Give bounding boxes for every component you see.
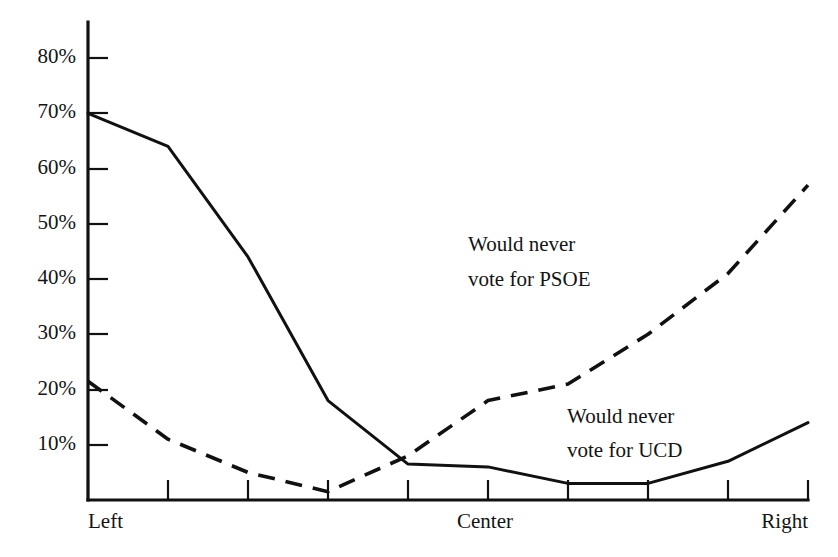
y-label-10: 10% xyxy=(38,431,77,455)
line-chart: 80% 70% 60% 50% 40% 30% 20% 10% Left Cen… xyxy=(0,0,838,557)
y-label-40: 40% xyxy=(38,265,77,289)
annotation-ucd-line1: Would never xyxy=(567,404,674,428)
y-label-80: 80% xyxy=(38,44,77,68)
x-label-right: Right xyxy=(761,509,808,533)
series-line-psoe xyxy=(88,185,808,492)
annotation-psoe-line2: vote for PSOE xyxy=(468,267,591,291)
x-label-left: Left xyxy=(88,509,123,533)
x-axis-ticks xyxy=(88,480,808,500)
y-axis-labels: 80% 70% 60% 50% 40% 30% 20% 10% xyxy=(38,44,77,455)
chart-container: 80% 70% 60% 50% 40% 30% 20% 10% Left Cen… xyxy=(0,0,838,557)
annotation-psoe-line1: Would never xyxy=(468,232,575,256)
y-label-70: 70% xyxy=(38,99,77,123)
y-label-20: 20% xyxy=(38,376,77,400)
x-axis-labels: Left Center Right xyxy=(88,509,808,533)
x-label-center: Center xyxy=(457,509,513,533)
y-label-60: 60% xyxy=(38,155,77,179)
y-label-50: 50% xyxy=(38,210,77,234)
annotation-ucd-line2: vote for UCD xyxy=(567,438,682,462)
annotation-ucd: Would never vote for UCD xyxy=(567,404,682,462)
annotation-psoe: Would never vote for PSOE xyxy=(468,232,591,291)
y-label-30: 30% xyxy=(38,320,77,344)
